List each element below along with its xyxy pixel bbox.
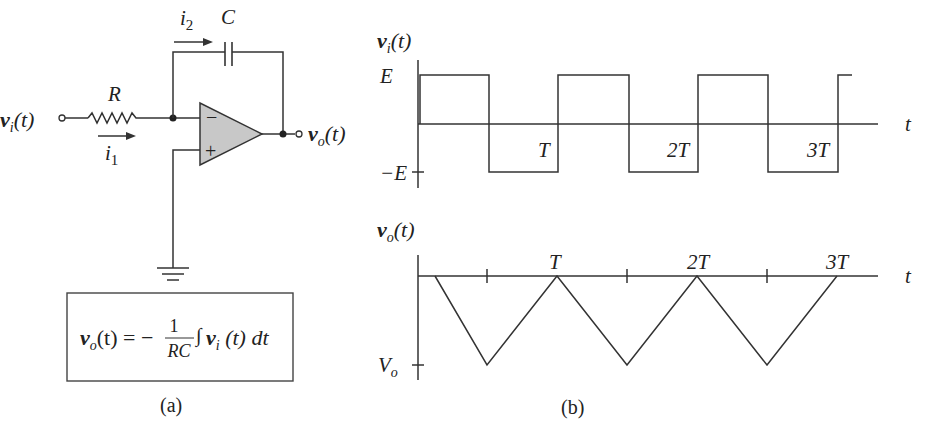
current-i1-label: i1: [105, 141, 118, 168]
figure: − + vi(t) R C i1 i2: [0, 0, 933, 431]
fraction-denominator: RC: [166, 341, 191, 361]
arrow-i1-icon: [98, 132, 136, 140]
3T-label: 3T: [806, 138, 831, 162]
input-label: vi(t): [0, 107, 34, 135]
noninverting-sign: +: [205, 140, 216, 162]
formula-box: vo(t) = − 1 RC ∫ vi (t) dt: [67, 293, 293, 381]
3T-label-bottom: 3T: [825, 250, 850, 274]
caption-a: (a): [160, 394, 182, 417]
capacitor-label: C: [221, 5, 236, 29]
Vo-tick-label: Vo: [378, 353, 398, 380]
fraction-numerator: 1: [170, 316, 179, 336]
inverting-sign: −: [206, 106, 217, 128]
negE-tick-label: −E: [380, 161, 407, 185]
input-terminal: [59, 115, 65, 121]
vo-axis-label: vo(t): [377, 217, 415, 245]
2T-label: 2T: [667, 138, 691, 162]
T-label: T: [538, 138, 551, 162]
output-terminal: [296, 131, 302, 137]
current-i2-label: i2: [180, 6, 193, 33]
T-label-bottom: T: [549, 250, 562, 274]
output-node: [280, 131, 287, 138]
arrow-i2-icon: [174, 38, 213, 46]
E-tick-label: E: [379, 64, 393, 88]
formula-integrand: vi (t) dt: [206, 325, 269, 353]
output-label: vo(t): [308, 121, 346, 149]
t-axis-label: t: [905, 112, 912, 136]
t-axis-label-bottom: t: [905, 264, 912, 288]
input-waveform-chart: vi(t) E −E T 2T 3T t: [377, 28, 912, 188]
vi-axis-label: vi(t): [377, 28, 411, 56]
triangle-wave: [435, 276, 837, 365]
resistor-label: R: [107, 82, 121, 106]
caption-b: (b): [561, 396, 584, 419]
ground-icon: [157, 268, 189, 280]
integrator-circuit: − + vi(t) R C i1 i2: [0, 5, 346, 280]
output-waveform-chart: vo(t) Vo T 2T 3T t: [377, 217, 912, 380]
resistor-icon: [88, 113, 140, 123]
2T-label-bottom: 2T: [687, 250, 711, 274]
